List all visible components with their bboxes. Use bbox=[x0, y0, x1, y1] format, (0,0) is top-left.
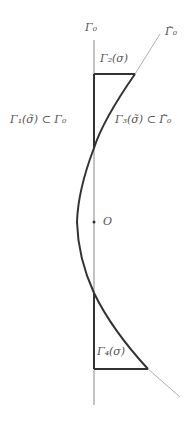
gamma0-tilde-top-extension bbox=[135, 34, 160, 74]
gamma4-label: Γ₄(σ) bbox=[97, 346, 125, 357]
diagram-canvas: Γ₀ Γ̃₀ Γ₂(σ) Γ₁(σ̃) ⊂ Γ₀ Γ₃(σ̃) ⊂ Γ̃₀ O … bbox=[0, 0, 190, 424]
gamma0-tilde-bottom-extension bbox=[148, 369, 180, 397]
gamma1-label: Γ₁(σ̃) ⊂ Γ₀ bbox=[10, 114, 66, 125]
gamma0-tilde-axis-label: Γ̃₀ bbox=[165, 26, 177, 37]
gamma2-label: Γ₂(σ) bbox=[100, 53, 128, 64]
gamma0-axis-label: Γ₀ bbox=[85, 22, 97, 33]
diagram-svg bbox=[0, 0, 190, 424]
origin-label: O bbox=[103, 216, 112, 227]
origin-point bbox=[93, 221, 96, 224]
gamma3-label: Γ₃(σ̃) ⊂ Γ̃₀ bbox=[115, 114, 171, 125]
curve-vertex-point bbox=[76, 221, 78, 223]
